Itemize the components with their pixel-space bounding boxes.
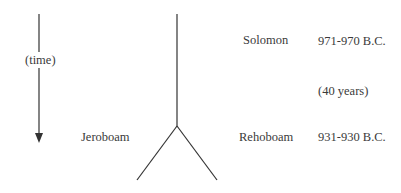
lineage-tree xyxy=(137,14,217,180)
solomon-date: 971-970 B.C. xyxy=(318,34,386,48)
rehoboam-label: Rehoboam xyxy=(239,130,293,144)
arrowhead-icon xyxy=(35,133,43,143)
jeroboam-label: Jeroboam xyxy=(81,130,130,144)
duration-label: (40 years) xyxy=(318,84,368,98)
rehoboam-date: 931-930 B.C. xyxy=(318,130,386,144)
time-label: (time) xyxy=(25,53,56,67)
solomon-label: Solomon xyxy=(243,33,288,47)
